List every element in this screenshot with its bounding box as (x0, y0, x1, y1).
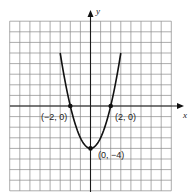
x-axis-label: x (182, 110, 187, 120)
y-axis-label: y (95, 6, 100, 16)
label-2-0: (2, 0) (115, 112, 136, 122)
parabola-graph: x y (−2, 0) (2, 0) (0, −4) (0, 0, 194, 196)
point-2-0 (108, 104, 113, 109)
y-axis-arrow-icon (88, 10, 94, 17)
label-0-neg4: (0, −4) (98, 150, 124, 160)
label-neg2-0: (−2, 0) (41, 112, 67, 122)
x-axis-arrow-icon (177, 103, 184, 109)
point-neg2-0 (68, 104, 73, 109)
point-0-neg4 (88, 146, 93, 151)
